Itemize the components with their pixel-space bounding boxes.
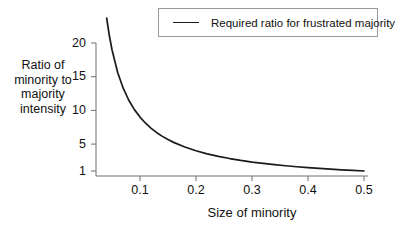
x-tick-label-0.1: 0.1: [122, 184, 158, 197]
series-line-required-ratio: [107, 18, 364, 171]
legend-line-swatch: [173, 22, 199, 23]
y-axis-label-line-2: minority to: [4, 73, 82, 88]
x-tick-label-0.3: 0.3: [234, 184, 270, 197]
legend-entry-label: Required ratio for frustrated majority: [211, 17, 395, 29]
y-tick-label-5: 5: [52, 138, 86, 151]
x-tick-label-0.2: 0.2: [178, 184, 214, 197]
y-axis-label-line-4: intensity: [4, 102, 82, 117]
chart-legend: Required ratio for frustrated majority: [158, 8, 378, 37]
y-axis-label: Ratio of minority to majority intensity: [4, 58, 82, 116]
y-tick-label-1: 1: [52, 165, 86, 178]
x-tick-label-0.5: 0.5: [346, 184, 382, 197]
y-tick-label-20: 20: [52, 37, 86, 50]
x-axis-ticks: [140, 176, 364, 181]
legend-entry: Required ratio for frustrated majority: [159, 9, 377, 36]
y-axis-label-line-1: Ratio of: [4, 58, 82, 73]
x-axis-label: Size of minority: [140, 205, 364, 220]
y-axis-label-line-3: majority: [4, 87, 82, 102]
x-tick-label-0.4: 0.4: [290, 184, 326, 197]
y-axis-ticks: [91, 43, 96, 171]
